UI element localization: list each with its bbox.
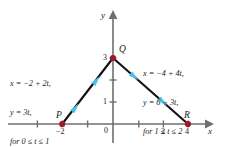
parametric-curve-figure: y x 0 3 1 −2 2 4 P Q R x = −2 + 2t, y = … (0, 0, 227, 148)
left-eqn-line-3: for 0 ≤ t ≤ 1 (10, 137, 51, 147)
left-eqn-line-2: y = 3t, (10, 108, 51, 118)
tick-label-x4: 4 (185, 127, 189, 136)
point-R-label: R (184, 110, 190, 121)
point-Q-marker (110, 55, 116, 61)
y-axis-label: y (101, 10, 105, 21)
right-parametric-equations: x = −4 + 4t, y = 6 − 3t, for 1 ≤ t ≤ 2 (143, 50, 184, 148)
left-parametric-equations: x = −2 + 2t, y = 3t, for 0 ≤ t ≤ 1 (10, 60, 51, 148)
point-Q-label: Q (119, 44, 126, 55)
point-P-label: P (56, 110, 62, 121)
segment-PQ (62, 58, 113, 124)
x-axis-label: x (208, 126, 212, 137)
right-eqn-line-2: y = 6 − 3t, (143, 98, 184, 108)
tick-label-xneg2: −2 (56, 127, 65, 136)
left-eqn-line-1: x = −2 + 2t, (10, 79, 51, 89)
tick-label-y1: 1 (103, 97, 107, 106)
right-eqn-line-1: x = −4 + 4t, (143, 69, 184, 79)
right-eqn-line-3: for 1 ≤ t ≤ 2 (143, 127, 184, 137)
tick-label-y3: 3 (103, 53, 107, 62)
tick-label-origin: 0 (104, 126, 108, 135)
y-axis-arrowhead (109, 10, 118, 19)
